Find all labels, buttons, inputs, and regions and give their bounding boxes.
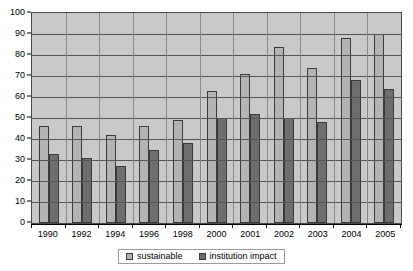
y-tick-label: 90 bbox=[15, 29, 25, 38]
y-tick-label: 20 bbox=[15, 176, 25, 185]
x-tick-mark bbox=[366, 224, 367, 228]
category-separator bbox=[133, 13, 134, 223]
bar-institution-impact-1992 bbox=[82, 158, 92, 223]
x-axis-labels: 1990199219941996199820002001200220032004… bbox=[31, 228, 402, 240]
legend-item-institution-impact[interactable]: institution impact bbox=[199, 252, 277, 261]
bar-institution-impact-2000 bbox=[217, 118, 227, 223]
bar-sustainable-2005 bbox=[374, 34, 384, 223]
x-tick-mark bbox=[98, 224, 99, 228]
y-tick-label: 100 bbox=[10, 8, 25, 17]
y-tick-label: 60 bbox=[15, 92, 25, 101]
x-tick-label: 2004 bbox=[335, 228, 369, 240]
bar-sustainable-1998 bbox=[173, 120, 183, 223]
y-tick-label: 50 bbox=[15, 113, 25, 122]
x-tick-mark bbox=[165, 224, 166, 228]
x-tick-mark bbox=[400, 224, 401, 228]
plot-area bbox=[31, 12, 402, 224]
x-tick-label: 1994 bbox=[98, 228, 132, 240]
gridline bbox=[32, 76, 401, 77]
bar-institution-impact-2001 bbox=[250, 114, 260, 223]
x-tick-mark bbox=[333, 224, 334, 228]
legend-swatch-institution-impact-icon bbox=[199, 253, 206, 260]
bar-sustainable-1990 bbox=[39, 126, 49, 223]
legend-item-sustainable[interactable]: sustainable bbox=[126, 252, 183, 261]
x-tick-label: 2001 bbox=[233, 228, 267, 240]
y-axis: 0102030405060708090100 bbox=[0, 0, 31, 236]
category-separator bbox=[99, 13, 100, 223]
gridline bbox=[32, 160, 401, 161]
bar-sustainable-2003 bbox=[307, 68, 317, 223]
x-tick-mark bbox=[266, 224, 267, 228]
x-tick-label: 1992 bbox=[65, 228, 99, 240]
gridline bbox=[32, 34, 401, 35]
bar-institution-impact-1994 bbox=[116, 166, 126, 223]
y-tick-label: 10 bbox=[15, 197, 25, 206]
x-tick-label: 2002 bbox=[267, 228, 301, 240]
chart-legend: sustainableinstitution impact bbox=[118, 249, 285, 264]
category-separator bbox=[300, 13, 301, 223]
x-tick-mark bbox=[232, 224, 233, 228]
bar-sustainable-2002 bbox=[274, 47, 284, 223]
category-separator bbox=[334, 13, 335, 223]
category-separator bbox=[267, 13, 268, 223]
bar-sustainable-1994 bbox=[106, 135, 116, 223]
x-tick-mark bbox=[132, 224, 133, 228]
category-separator bbox=[367, 13, 368, 223]
x-tick-label: 2000 bbox=[200, 228, 234, 240]
bar-chart: 0102030405060708090100 19901992199419961… bbox=[0, 0, 413, 271]
y-tick-label: 0 bbox=[20, 218, 25, 227]
x-tick-mark bbox=[65, 224, 66, 228]
gridline bbox=[32, 181, 401, 182]
category-separator bbox=[200, 13, 201, 223]
legend-swatch-sustainable-icon bbox=[126, 253, 133, 260]
bar-sustainable-1992 bbox=[72, 126, 82, 223]
y-tick-label: 80 bbox=[15, 50, 25, 59]
bar-institution-impact-2002 bbox=[284, 118, 294, 223]
category-separator bbox=[166, 13, 167, 223]
bar-sustainable-1996 bbox=[139, 126, 149, 223]
category-separator bbox=[233, 13, 234, 223]
y-tick-label: 40 bbox=[15, 134, 25, 143]
x-tick-mark bbox=[199, 224, 200, 228]
x-tick-label: 1998 bbox=[166, 228, 200, 240]
x-tick-mark bbox=[31, 224, 32, 228]
bar-institution-impact-1998 bbox=[183, 143, 193, 223]
x-tick-label: 2005 bbox=[368, 228, 402, 240]
gridline bbox=[32, 118, 401, 119]
gridline bbox=[32, 202, 401, 203]
bar-sustainable-2000 bbox=[207, 91, 217, 223]
legend-label: sustainable bbox=[137, 252, 183, 261]
bar-institution-impact-1990 bbox=[49, 154, 59, 223]
bar-institution-impact-2003 bbox=[317, 122, 327, 223]
x-tick-mark bbox=[299, 224, 300, 228]
category-separator bbox=[66, 13, 67, 223]
x-tick-label: 1996 bbox=[132, 228, 166, 240]
y-tick-label: 70 bbox=[15, 71, 25, 80]
x-tick-label: 2003 bbox=[301, 228, 335, 240]
gridline bbox=[32, 55, 401, 56]
bar-sustainable-2004 bbox=[341, 38, 351, 223]
x-axis: 1990199219941996199820002001200220032004… bbox=[31, 224, 402, 244]
x-axis-line bbox=[31, 224, 402, 225]
gridline bbox=[32, 97, 401, 98]
gridline bbox=[32, 139, 401, 140]
x-tick-label: 1990 bbox=[31, 228, 65, 240]
legend-label: institution impact bbox=[210, 252, 277, 261]
y-tick-label: 30 bbox=[15, 155, 25, 164]
